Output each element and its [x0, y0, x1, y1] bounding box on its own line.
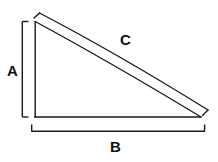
side-label-a: A: [7, 63, 18, 78]
bracket-a: [22, 22, 28, 118]
side-label-c: C: [120, 32, 131, 47]
triangle-diagram-svg: [0, 0, 218, 162]
bracket-c: [34, 13, 208, 116]
bracket-c-line: [40, 13, 209, 110]
figure-canvas: A B C: [0, 0, 218, 162]
bracket-c-tick-start: [34, 13, 40, 18]
right-triangle: [35, 22, 201, 118]
bracket-b: [31, 125, 205, 132]
bracket-c-tick-end: [203, 110, 209, 116]
side-label-b: B: [110, 139, 121, 154]
triangle-hypotenuse: [35, 22, 201, 118]
